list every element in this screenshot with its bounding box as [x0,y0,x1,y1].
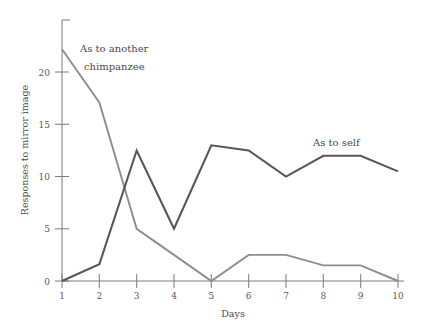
chart-figure: 0 5 10 15 20 1 2 3 4 5 6 7 8 9 10 [0,0,421,324]
line-chart-plot: 0 5 10 15 20 1 2 3 4 5 6 7 8 9 10 [0,0,421,324]
x-tick-label-3: 3 [134,291,140,301]
x-tick-label-10: 10 [392,291,404,301]
x-tick-label-9: 9 [358,291,364,301]
x-tick-label-6: 6 [246,291,252,301]
y-tick-label-0: 0 [44,277,50,287]
series-annotation-as-to-self: As to self [312,137,361,148]
x-tick-label-4: 4 [171,291,177,301]
y-tick-label-5: 5 [44,224,50,234]
x-tick-label-2: 2 [96,291,102,301]
series-annotation-chimpanzee-line1: As to another [79,43,149,54]
y-tick-label-20: 20 [39,68,51,78]
x-tick-label-1: 1 [59,291,65,301]
y-tick-label-10: 10 [39,172,51,182]
x-tick-label-8: 8 [320,291,326,301]
x-tick-label-7: 7 [283,291,289,301]
x-tick-label-5: 5 [208,291,214,301]
x-axis-title: Days [221,308,245,319]
series-line-as-to-self [62,145,398,281]
series-line-as-to-another-chimpanzee [62,49,398,281]
y-axis-title: Responses to mirror image [19,84,30,215]
y-tick-label-15: 15 [39,120,51,130]
series-annotation-chimpanzee-line2: chimpanzee [84,61,145,72]
